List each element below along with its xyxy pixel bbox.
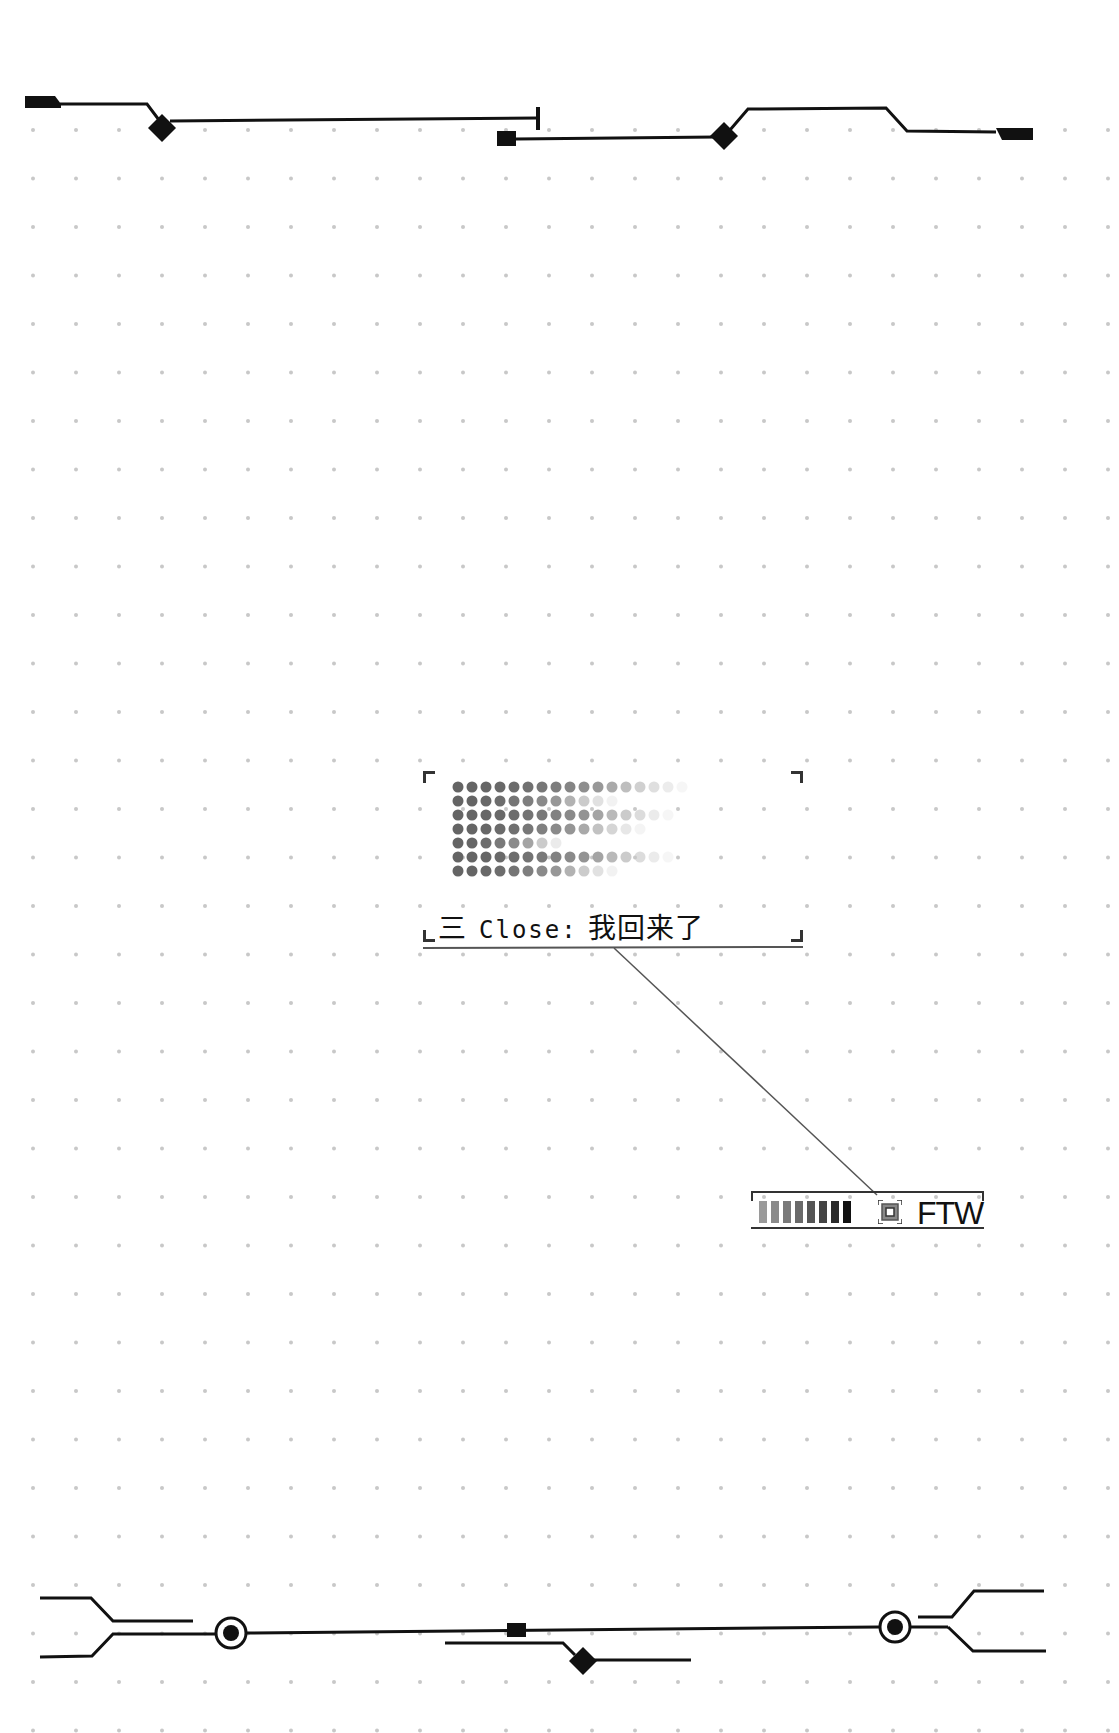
signal-bar (795, 1201, 803, 1223)
diamond-node (148, 114, 176, 142)
signal-bar (759, 1201, 767, 1223)
tab-end-right (996, 128, 1033, 140)
target-square-icon (878, 1200, 902, 1224)
signal-bar (831, 1201, 839, 1223)
signal-bar (843, 1201, 851, 1223)
close-label: Close: (479, 916, 578, 944)
status-label: 三Close: 我回来了 (438, 906, 704, 946)
square-node (507, 1623, 526, 1637)
signal-bars (759, 1201, 851, 1223)
corner-bottom-left (423, 930, 435, 942)
signal-bar (783, 1201, 791, 1223)
close-value: 我回来了 (588, 912, 704, 945)
ftw-badge[interactable]: FTW (751, 1191, 984, 1229)
dot-matrix-graphic (423, 771, 803, 891)
signal-bar (819, 1201, 827, 1223)
connector-line (614, 948, 877, 1195)
target-node (223, 1625, 239, 1641)
signal-bar (771, 1201, 779, 1223)
ftw-label: FTW (917, 1195, 983, 1232)
signal-bar (807, 1201, 815, 1223)
panel-underline (423, 947, 803, 948)
tab-end-left (25, 96, 61, 108)
corner-bottom-right (791, 930, 803, 942)
hamburger-icon[interactable]: 三 (438, 912, 467, 945)
square-node (497, 131, 516, 146)
target-node (887, 1619, 903, 1635)
